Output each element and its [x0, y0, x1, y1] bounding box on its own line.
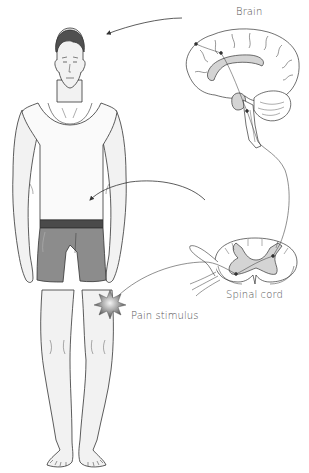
spinal-cord-illustration — [190, 238, 297, 296]
tank-top — [22, 103, 117, 220]
brain-label: Brain — [236, 6, 262, 17]
waistband — [40, 220, 103, 228]
neck-tendons — [62, 108, 77, 118]
left-leg — [41, 290, 74, 467]
ventral-root-fibers — [190, 272, 220, 296]
right-leg — [79, 290, 114, 467]
ascending-pathway-line — [258, 142, 289, 244]
shorts — [37, 228, 106, 282]
cerebellum — [254, 91, 291, 121]
dorsal-root — [190, 246, 218, 276]
pain-stimulus-label: Pain stimulus — [131, 310, 199, 321]
human-figure — [13, 28, 127, 467]
diagram-canvas — [0, 0, 309, 473]
spinal-cord-label: Spinal cord — [226, 289, 283, 300]
pain-pathway-diagram: Brain Spinal cord Pain stimulus — [0, 0, 309, 473]
brain-to-head-arrow — [107, 18, 182, 34]
spinal-to-torso-arrow — [90, 181, 205, 200]
cerebrum — [186, 29, 299, 102]
brain-illustration — [186, 29, 299, 148]
